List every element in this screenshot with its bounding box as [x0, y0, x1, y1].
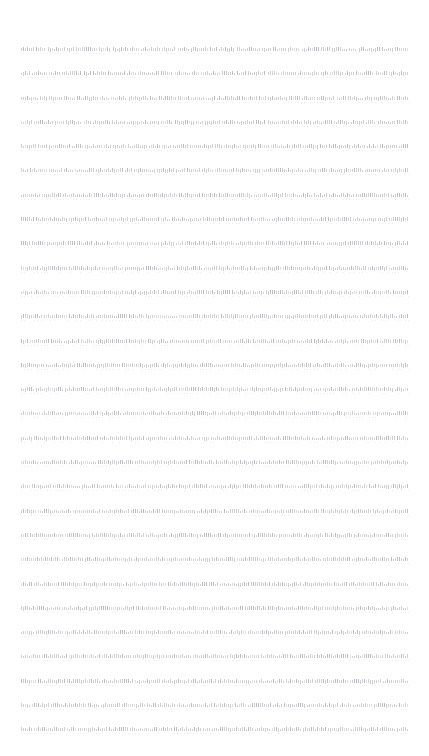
micro-glyph: [357, 630, 358, 634]
micro-glyph: [337, 388, 338, 391]
micro-glyph: [154, 266, 155, 270]
micro-glyph: [302, 558, 303, 561]
micro-glyph: [407, 340, 408, 343]
micro-glyph: [62, 363, 63, 367]
micro-glyph: [241, 534, 242, 537]
micro-glyph: [323, 242, 324, 245]
micro-glyph: [295, 72, 296, 75]
micro-glyph-group: [34, 573, 42, 586]
micro-glyph: [384, 485, 385, 488]
micro-glyph-group: [251, 208, 271, 221]
micro-glyph: [358, 144, 359, 148]
micro-glyph: [149, 48, 150, 51]
micro-glyph: [390, 314, 391, 318]
micro-glyph: [399, 411, 400, 415]
micro-glyph-group: [104, 135, 112, 148]
micro-glyph: [297, 631, 298, 634]
micro-glyph-group: [262, 354, 286, 368]
micro-glyph: [21, 632, 22, 634]
micro-glyph-group: [311, 573, 333, 587]
micro-glyph: [139, 511, 140, 513]
micro-glyph: [83, 510, 84, 513]
micro-glyph: [23, 582, 24, 586]
micro-glyph: [335, 291, 336, 294]
micro-glyph: [314, 193, 315, 197]
micro-glyph-group: [144, 548, 166, 561]
micro-glyph: [30, 533, 31, 537]
micro-glyph: [203, 607, 204, 610]
micro-glyph: [53, 703, 54, 707]
micro-glyph: [117, 49, 118, 51]
micro-glyph: [270, 121, 271, 124]
micro-glyph: [215, 486, 216, 488]
micro-glyph: [329, 486, 330, 488]
micro-glyph: [176, 680, 177, 683]
micro-glyph: [291, 242, 292, 245]
micro-glyph: [165, 96, 166, 100]
micro-glyph-group: [110, 500, 130, 514]
micro-glyph: [138, 219, 139, 221]
micro-glyph: [252, 387, 253, 391]
micro-glyph-group: [129, 427, 145, 441]
micro-glyph: [21, 413, 22, 415]
micro-glyph: [169, 168, 170, 172]
micro-glyph: [87, 145, 88, 149]
micro-glyph: [314, 438, 315, 440]
micro-glyph-group: [102, 500, 110, 513]
micro-glyph: [323, 485, 324, 488]
micro-glyph: [212, 387, 213, 391]
micro-glyph: [59, 144, 60, 148]
micro-glyph: [244, 654, 245, 658]
micro-glyph: [248, 727, 249, 731]
micro-glyph: [96, 704, 97, 707]
micro-glyph-group: [187, 257, 203, 270]
micro-glyph: [23, 558, 24, 561]
micro-glyph: [393, 559, 394, 561]
micro-glyph: [138, 364, 139, 367]
micro-glyph: [386, 49, 387, 51]
micro-glyph: [98, 727, 99, 731]
micro-glyph-shadow-row: [21, 466, 409, 467]
micro-glyph: [373, 340, 374, 343]
micro-glyph: [346, 460, 347, 464]
micro-glyph: [308, 411, 309, 415]
micro-glyph: [315, 218, 316, 221]
micro-glyph: [364, 412, 365, 415]
micro-glyph: [168, 484, 169, 488]
micro-glyph: [290, 727, 291, 731]
micro-glyph: [374, 656, 375, 658]
micro-glyph: [100, 437, 101, 440]
micro-glyph: [384, 49, 385, 51]
micro-glyph: [349, 583, 350, 586]
micro-glyph: [367, 340, 368, 344]
micro-glyph: [260, 267, 261, 270]
micro-glyph: [21, 97, 22, 100]
micro-glyph: [42, 413, 43, 415]
micro-glyph: [124, 511, 125, 513]
micro-glyph: [289, 194, 290, 197]
micro-glyph-group: [231, 354, 245, 367]
micro-glyph: [235, 267, 236, 270]
micro-glyph: [44, 72, 45, 75]
micro-glyph: [320, 290, 321, 294]
micro-glyph: [57, 72, 58, 75]
micro-glyph: [100, 533, 101, 537]
micro-glyph: [104, 679, 105, 683]
micro-glyph-group: [100, 87, 110, 100]
micro-glyph: [208, 145, 209, 149]
micro-glyph: [264, 267, 265, 271]
micro-glyph-group: [92, 524, 114, 537]
micro-glyph: [345, 654, 346, 658]
micro-glyph: [131, 558, 132, 561]
micro-glyph: [98, 460, 99, 464]
micro-glyph: [127, 559, 128, 561]
micro-glyph: [395, 47, 396, 51]
micro-glyph: [316, 195, 317, 197]
micro-glyph: [263, 511, 264, 513]
micro-glyph: [386, 242, 387, 245]
micro-glyph: [276, 727, 277, 731]
micro-glyph-group: [223, 524, 239, 538]
micro-glyph: [29, 121, 30, 125]
micro-glyph: [27, 217, 28, 221]
micro-glyph: [81, 413, 82, 415]
